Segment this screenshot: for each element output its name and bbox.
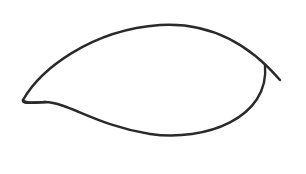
inner-corner-line <box>23 100 45 103</box>
eye-outline-icon <box>0 0 306 174</box>
upper-eyelid-line <box>23 25 280 100</box>
drawing-canvas <box>0 0 306 174</box>
lower-eyelid-line <box>23 65 265 136</box>
